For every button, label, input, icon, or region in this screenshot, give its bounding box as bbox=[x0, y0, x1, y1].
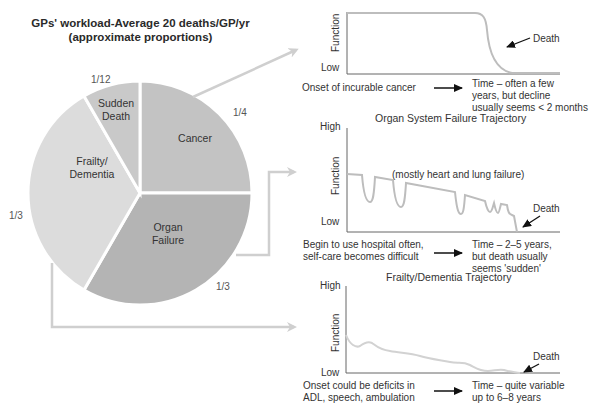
frailty-high-label: High bbox=[320, 280, 341, 291]
fraction-organ-failure: 1/3 bbox=[216, 281, 230, 292]
organ-label-line-1: Organ bbox=[128, 221, 208, 234]
title-line-1: GPs' workload-Average 20 deaths/GP/yr bbox=[18, 16, 263, 30]
frailty-chart-title: Frailty/Dementia Trajectory bbox=[386, 271, 511, 283]
arrow-cancer bbox=[193, 50, 296, 97]
cancer-death-arrow bbox=[507, 38, 530, 47]
organ-low-label: Low bbox=[321, 216, 339, 227]
cancer-onset-text: Onset of incurable cancer bbox=[302, 82, 416, 94]
organ-onset-line-1: Begin to use hospital often, bbox=[303, 239, 424, 251]
cancer-time-line-2: years, but decline bbox=[472, 90, 588, 102]
frailty-death-label: Death bbox=[533, 351, 560, 362]
organ-death-arrow bbox=[523, 216, 540, 227]
organ-time-line-1: Time – 2–5 years, bbox=[472, 239, 552, 251]
frailty-time-line-1: Time – quite variable bbox=[472, 380, 564, 392]
label-sudden-death: Sudden Death bbox=[86, 97, 146, 123]
fraction-sudden-death: 1/12 bbox=[91, 74, 110, 85]
frailty-onset-line-1: Onset could be deficits in bbox=[303, 380, 415, 392]
diagram-graphics bbox=[0, 0, 595, 415]
cancer-time-line-1: Time – often a few bbox=[472, 78, 588, 90]
fraction-frailty: 1/3 bbox=[9, 210, 23, 221]
frailty-curve bbox=[346, 335, 520, 373]
organ-failure-trajectory-chart bbox=[347, 128, 560, 253]
frailty-label-line-1: Frailty/ bbox=[52, 155, 132, 168]
sudden-label-line-1: Sudden bbox=[86, 97, 146, 110]
cancer-ylabel: Function bbox=[330, 14, 341, 52]
title-line-2: (approximate proportions) bbox=[18, 30, 263, 44]
cancer-low-label: Low bbox=[321, 62, 339, 73]
organ-failure-curve bbox=[347, 174, 517, 232]
frailty-onset-text: Onset could be deficits in ADL, speech, … bbox=[303, 380, 415, 404]
organ-time-text: Time – 2–5 years, but death usually seem… bbox=[472, 239, 552, 275]
organ-chart-title: Organ System Failure Trajectory bbox=[375, 112, 526, 124]
cancer-time-text: Time – often a few years, but decline us… bbox=[472, 78, 588, 114]
frailty-trajectory-chart bbox=[346, 286, 560, 391]
frailty-time-line-2: up to 6–8 years bbox=[472, 392, 564, 404]
sudden-label-line-2: Death bbox=[86, 110, 146, 123]
organ-ylabel: Function bbox=[330, 157, 341, 195]
label-frailty: Frailty/ Dementia bbox=[52, 155, 132, 181]
organ-label-line-2: Failure bbox=[128, 234, 208, 247]
frailty-low-label: Low bbox=[321, 367, 339, 378]
frailty-death-arrow bbox=[524, 364, 539, 372]
frailty-label-line-2: Dementia bbox=[52, 168, 132, 181]
label-organ-failure: Organ Failure bbox=[128, 221, 208, 247]
organ-time-line-2: but death usually bbox=[472, 251, 552, 263]
frailty-ylabel: Function bbox=[330, 314, 341, 352]
fraction-cancer: 1/4 bbox=[233, 107, 247, 118]
organ-onset-line-2: self-care becomes difficult bbox=[303, 251, 424, 263]
cancer-death-label: Death bbox=[533, 33, 560, 44]
organ-death-label: Death bbox=[533, 203, 560, 214]
diagram-title: GPs' workload-Average 20 deaths/GP/yr (a… bbox=[18, 16, 263, 44]
label-cancer: Cancer bbox=[150, 132, 240, 145]
cancer-curve bbox=[347, 13, 560, 73]
organ-high-label: High bbox=[320, 121, 341, 132]
cancer-trajectory-chart bbox=[347, 12, 560, 88]
frailty-onset-line-2: ADL, speech, ambulation bbox=[303, 392, 415, 404]
frailty-time-text: Time – quite variable up to 6–8 years bbox=[472, 380, 564, 404]
cancer-label-text: Cancer bbox=[150, 132, 240, 145]
organ-note: (mostly heart and lung failure) bbox=[392, 169, 524, 180]
organ-onset-text: Begin to use hospital often, self-care b… bbox=[303, 239, 424, 263]
